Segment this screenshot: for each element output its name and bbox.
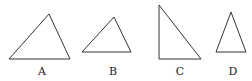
label-c: C	[176, 65, 184, 78]
triangles-figure: A B C D	[0, 0, 252, 81]
triangle-c	[159, 5, 201, 59]
triangle-d	[216, 12, 246, 52]
triangle-b	[82, 17, 131, 52]
label-a: A	[37, 65, 47, 78]
triangle-a	[9, 14, 70, 59]
label-d: D	[229, 65, 238, 78]
label-b: B	[109, 65, 117, 78]
